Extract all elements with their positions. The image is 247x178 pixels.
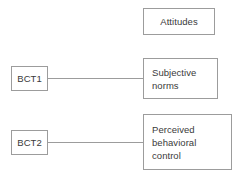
node-attitudes[interactable]: Attitudes <box>143 8 215 35</box>
diagram-canvas: Attitudes Subjective norms Perceived beh… <box>0 0 247 178</box>
node-perceived-behavioral-control[interactable]: Perceived behavioral control <box>143 114 232 170</box>
node-perceived-behavioral-control-label: Perceived behavioral control <box>152 123 196 162</box>
node-attitudes-label: Attitudes <box>160 15 197 28</box>
edge-bct1-to-subjective-norms <box>47 78 144 79</box>
node-bct2[interactable]: BCT2 <box>11 130 48 155</box>
node-subjective-norms-label: Subjective norms <box>152 66 196 92</box>
node-bct1-label: BCT1 <box>17 72 41 85</box>
edge-bct2-to-perceived-behavioral-control <box>47 142 144 143</box>
node-bct2-label: BCT2 <box>17 136 41 149</box>
node-subjective-norms[interactable]: Subjective norms <box>143 58 218 99</box>
node-bct1[interactable]: BCT1 <box>11 66 48 91</box>
